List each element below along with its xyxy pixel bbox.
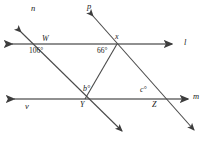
angle-label-x: 66° [97,47,108,55]
line-label-p: p [87,2,91,11]
line-label-v: v [25,102,29,111]
geometry-canvas [0,0,211,145]
geometry-diagram: n p l v m W x Y Z 106° 66° b° c° [0,0,211,145]
point-label-Y: Y [80,101,84,109]
line-label-m: m [193,92,199,101]
angle-label-Y: b° [83,85,90,93]
line-label-l: l [184,38,186,47]
line-p-segment [93,16,194,130]
line-p [93,16,194,130]
angle-label-W: 106° [29,47,43,55]
point-label-Z: Z [152,101,156,109]
line-label-n: n [31,4,35,13]
point-label-x: x [115,33,119,41]
angle-label-Z: c° [140,86,147,94]
point-label-W: W [42,35,49,43]
